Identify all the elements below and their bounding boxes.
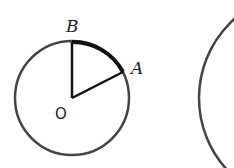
radius-oa: [72, 72, 123, 98]
second-circle: [199, 0, 234, 168]
label-o: O: [55, 105, 67, 123]
arc-ba: [72, 42, 123, 72]
label-b: B: [65, 16, 79, 36]
label-a: A: [129, 58, 143, 78]
geometry-diagram: B A O: [0, 0, 234, 168]
